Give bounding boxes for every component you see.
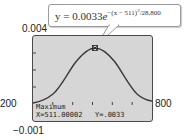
x-readout: X=511.00002 [36,111,82,119]
exponent-denominator: /28,800 [140,9,161,17]
status-readout: Maximum X=511.00002 Y=.0033 [36,103,125,119]
calculator-graph-screen: Maximum X=511.00002 Y=.0033 [32,35,153,122]
equation-text: y = 0.0033e−(x − 511)2/28,800 [55,8,161,22]
x-max-label: 800 [155,98,172,109]
equation-callout: y = 0.0033e−(x − 511)2/28,800 [48,4,181,27]
y-axis-ticks [33,53,36,87]
y-readout: Y=.0033 [95,111,125,119]
bell-curve [33,48,152,103]
status-mode: Maximum [36,103,125,111]
y-max-label: 0.004 [22,23,47,34]
x-min-label: 200 [0,98,17,109]
exponent-term: −(x − 511) [107,9,137,17]
equation-coefficient: y = 0.0033 [55,10,102,22]
equation-exponent: −(x − 511)2/28,800 [107,9,161,17]
y-min-label: −0.001 [13,125,44,136]
coordinate-readout: X=511.00002 Y=.0033 [36,111,125,119]
